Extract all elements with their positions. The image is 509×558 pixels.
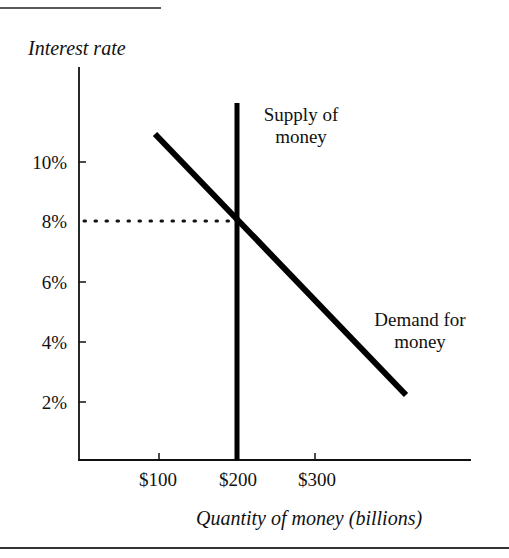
y-tick-label: 8%: [7, 212, 67, 231]
demand-curve-label: Demand for money: [355, 309, 485, 353]
demand-label-line-2: money: [355, 331, 485, 353]
demand-for-money-line: [155, 134, 406, 395]
x-tick-label: $300: [287, 470, 347, 489]
supply-label-line-2: money: [246, 126, 356, 148]
y-axis-title: Interest rate: [28, 38, 126, 58]
y-tick-label: 10%: [7, 153, 67, 172]
x-tick-label: $100: [128, 470, 188, 489]
supply-label-line-1: Supply of: [246, 104, 356, 126]
y-tick-label: 4%: [7, 333, 67, 352]
x-tick-label: $200: [208, 470, 268, 489]
y-axis-ticks: [79, 162, 86, 402]
x-axis-title: Quantity of money (billions): [196, 508, 422, 528]
y-tick-label: 6%: [7, 273, 67, 292]
demand-label-line-1: Demand for: [355, 309, 485, 331]
y-tick-label: 2%: [7, 393, 67, 412]
supply-curve-label: Supply of money: [246, 104, 356, 148]
